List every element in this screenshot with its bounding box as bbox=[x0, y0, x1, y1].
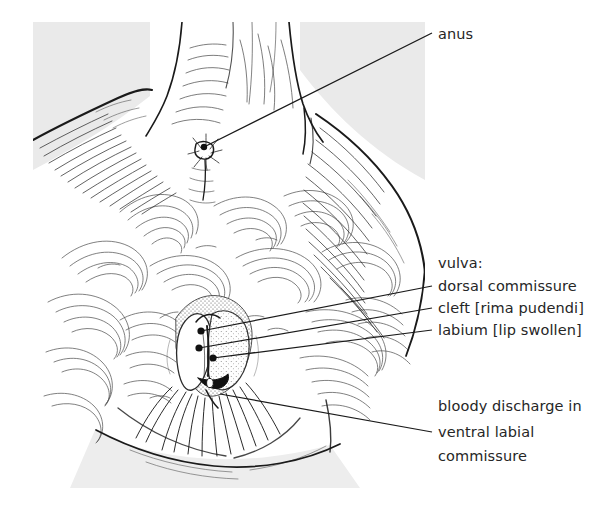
label-anus: anus bbox=[438, 26, 473, 42]
label-labium: labium [lip swollen] bbox=[438, 322, 582, 338]
figure-root: anus vulva: dorsal commissure cleft [rim… bbox=[0, 0, 602, 520]
anatomical-illustration: anus vulva: dorsal commissure cleft [rim… bbox=[0, 0, 602, 520]
label-group: anus vulva: dorsal commissure cleft [rim… bbox=[438, 26, 584, 464]
label-discharge-line2: ventral labial bbox=[438, 424, 534, 440]
label-cleft: cleft [rima pudendi] bbox=[438, 300, 584, 316]
dot-anus bbox=[201, 144, 207, 150]
illustration-panel bbox=[33, 22, 425, 488]
dot-cleft bbox=[195, 344, 202, 351]
label-discharge-line1: bloody discharge in bbox=[438, 398, 582, 414]
dot-dorsal-commissure bbox=[197, 327, 204, 334]
label-vulva-heading: vulva: bbox=[438, 255, 483, 271]
label-dorsal-commissure: dorsal commissure bbox=[438, 278, 577, 294]
label-discharge-line3: commissure bbox=[438, 448, 527, 464]
dot-labium bbox=[209, 354, 216, 361]
